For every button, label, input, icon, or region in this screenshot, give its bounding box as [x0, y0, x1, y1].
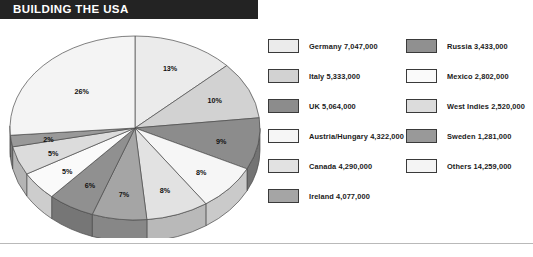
pie-chart: 13%10%9%8%8%7%6%5%5%2%26% — [0, 20, 262, 238]
legend-item[interactable]: Germany 7,047,000 — [268, 31, 406, 61]
legend-item-label: Italy 5,333,000 — [309, 72, 360, 81]
legend-item-label: UK 5,064,000 — [309, 102, 356, 111]
pie-slice-percent-label: 7% — [119, 190, 130, 199]
legend-item-label: West Indies 2,520,000 — [447, 102, 525, 111]
pie-slice-percent-label: 9% — [216, 137, 227, 146]
legend-item-label: Sweden 1,281,000 — [447, 132, 511, 141]
legend-item[interactable]: Canada 4,290,000 — [268, 151, 406, 181]
legend-item-label: Ireland 4,077,000 — [309, 192, 370, 201]
footer-divider — [0, 243, 533, 244]
legend-column-right: Russia 3,433,000Mexico 2,802,000West Ind… — [406, 31, 531, 221]
pie-slice-percent-label: 5% — [48, 149, 59, 158]
pie-slice-percent-label: 6% — [85, 181, 96, 190]
pie-slice[interactable] — [10, 36, 135, 135]
legend-swatch-icon — [268, 189, 299, 203]
legend-column-left: Germany 7,047,000Italy 5,333,000UK 5,064… — [268, 31, 406, 221]
legend-swatch-icon — [406, 159, 437, 173]
pie-chart-svg: 13%10%9%8%8%7%6%5%5%2%26% — [0, 20, 262, 238]
pie-slice-percent-label: 26% — [75, 87, 90, 96]
legend-item-label: Others 14,259,000 — [447, 162, 512, 171]
pie-slice-percent-label: 8% — [196, 168, 207, 177]
legend-item[interactable]: Ireland 4,077,000 — [268, 181, 406, 211]
legend-item[interactable]: West Indies 2,520,000 — [406, 91, 531, 121]
pie-slice-percent-label: 10% — [207, 96, 222, 105]
legend-swatch-icon — [406, 39, 437, 53]
legend-item[interactable]: Italy 5,333,000 — [268, 61, 406, 91]
legend-swatch-icon — [406, 69, 437, 83]
legend-item-label: Germany 7,047,000 — [309, 42, 378, 51]
legend-item-label: Mexico 2,802,000 — [447, 72, 509, 81]
legend-item-label: Austria/Hungary 4,322,000 — [309, 132, 404, 141]
legend-swatch-icon — [268, 129, 299, 143]
legend-item[interactable]: Austria/Hungary 4,322,000 — [268, 121, 406, 151]
legend-swatch-icon — [406, 129, 437, 143]
legend-item-label: Canada 4,290,000 — [309, 162, 372, 171]
legend-item-label: Russia 3,433,000 — [447, 42, 508, 51]
page-title: BUILDING THE USA — [13, 3, 129, 15]
legend-item[interactable]: Mexico 2,802,000 — [406, 61, 531, 91]
legend-item[interactable]: Sweden 1,281,000 — [406, 121, 531, 151]
pie-slices — [10, 36, 260, 220]
pie-slice-percent-label: 2% — [43, 135, 54, 144]
legend-swatch-icon — [268, 99, 299, 113]
legend-swatch-icon — [406, 99, 437, 113]
pie-slice-percent-label: 5% — [62, 167, 73, 176]
pie-slice-percent-label: 13% — [163, 64, 178, 73]
legend-item[interactable]: Russia 3,433,000 — [406, 31, 531, 61]
page-title-banner: BUILDING THE USA — [0, 0, 258, 19]
chart-legend: Germany 7,047,000Italy 5,333,000UK 5,064… — [268, 31, 531, 221]
legend-swatch-icon — [268, 69, 299, 83]
legend-swatch-icon — [268, 39, 299, 53]
legend-item[interactable]: UK 5,064,000 — [268, 91, 406, 121]
legend-item[interactable]: Others 14,259,000 — [406, 151, 531, 181]
legend-swatch-icon — [268, 159, 299, 173]
pie-slice-percent-label: 8% — [160, 186, 171, 195]
